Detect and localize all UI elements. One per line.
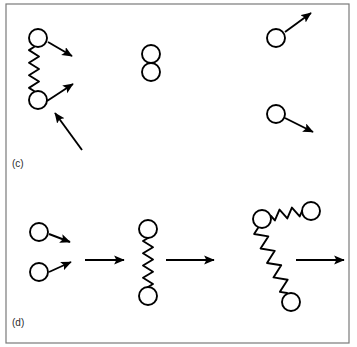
bead-d-trimer-right — [302, 202, 320, 220]
bead-d-trimer-bottom — [282, 293, 300, 311]
arrow-c-right-upper — [285, 13, 311, 32]
spring-d-trimer-top — [271, 208, 302, 221]
figure-container: (c) (d) — [0, 0, 357, 347]
spring-c-left — [29, 47, 39, 91]
bead-d-dimer-top — [139, 220, 157, 238]
bead-c-mid-lower — [142, 63, 160, 81]
arrow-c-bottom-left-bead — [47, 84, 73, 101]
arrow-c-top-left-bead — [48, 42, 72, 56]
arrow-c-right-lower — [285, 118, 313, 132]
panel-c — [29, 13, 313, 150]
bead-c-bottom-left — [29, 91, 47, 109]
arrow-d-reactant-lower — [49, 262, 71, 272]
spring-d-trimer-diagonal — [254, 228, 288, 293]
bead-c-right-upper — [267, 29, 285, 47]
arrow-c-incoming — [55, 113, 82, 150]
panel-d-label: (d) — [12, 317, 24, 328]
bead-c-mid-upper — [142, 45, 160, 63]
arrow-d-reactant-upper — [49, 234, 70, 242]
figure-canvas: (c) (d) — [0, 0, 357, 347]
bead-c-top-left — [29, 29, 47, 47]
spring-d-dimer — [143, 238, 153, 287]
bead-d-dimer-bottom — [139, 287, 157, 305]
bead-d-reactant-upper — [30, 223, 48, 241]
bead-d-reactant-lower — [30, 263, 48, 281]
figure-border — [6, 4, 349, 343]
panel-d — [30, 202, 344, 311]
panel-c-label: (c) — [12, 158, 24, 169]
bead-c-right-lower — [267, 105, 285, 123]
bead-d-trimer-left — [253, 210, 271, 228]
